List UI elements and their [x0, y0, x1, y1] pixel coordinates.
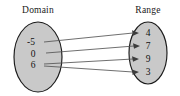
- range-element-3: 3: [146, 67, 151, 77]
- domain-oval: [14, 22, 62, 92]
- mapping-diagram: Domain Range -5 0 6 4 7 9 3: [0, 0, 180, 96]
- range-element-1: 7: [146, 41, 151, 51]
- domain-element-0: -5: [27, 37, 35, 47]
- range-element-2: 9: [146, 54, 151, 64]
- domain-heading: Domain: [22, 5, 54, 15]
- mapping-diagram-canvas: Domain Range -5 0 6 4 7 9 3: [0, 0, 180, 96]
- range-heading: Range: [135, 5, 160, 15]
- range-element-0: 4: [146, 28, 151, 38]
- domain-element-2: 6: [31, 60, 36, 70]
- domain-element-1: 0: [31, 49, 36, 59]
